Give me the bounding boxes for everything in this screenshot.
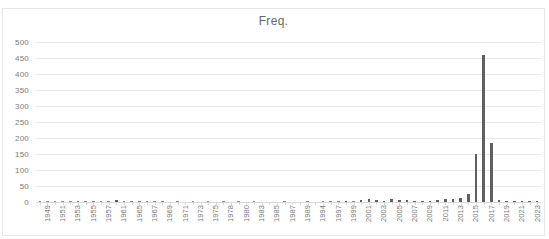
x-axis-tick <box>47 203 48 205</box>
x-axis-tick-label: 2019 <box>502 205 511 222</box>
y-axis-tick-label: 200 <box>15 134 29 143</box>
bar <box>130 201 133 202</box>
bar <box>398 200 401 202</box>
x-axis-tick-label: 2003 <box>379 205 388 222</box>
bar <box>421 201 424 202</box>
bar <box>253 201 256 202</box>
x-axis-tick-label: 1967 <box>150 205 159 222</box>
x-axis-tick-label: 1973 <box>196 205 205 222</box>
bar <box>306 201 309 202</box>
x-axis-tick <box>354 203 355 205</box>
x-axis-tick-label: 2007 <box>410 205 419 222</box>
bar <box>146 201 149 202</box>
x-axis-tick <box>522 203 523 205</box>
bar <box>528 201 531 202</box>
bar <box>360 200 363 202</box>
x-axis-tick <box>208 203 209 205</box>
x-axis-tick <box>507 203 508 205</box>
bar <box>413 201 416 202</box>
bar <box>123 201 126 202</box>
bar <box>237 201 240 202</box>
x-axis-tick <box>376 203 377 205</box>
x-axis-tick <box>484 203 485 205</box>
x-axis-tick-label: 1975 <box>211 205 220 222</box>
bar <box>368 199 371 202</box>
x-axis-tick-label: 2015 <box>471 205 480 222</box>
x-axis-tick <box>269 203 270 205</box>
x-axis-tick <box>438 203 439 205</box>
bar <box>536 201 539 202</box>
bar <box>69 201 72 202</box>
x-axis-tick <box>162 203 163 205</box>
y-axis-tick-label: 400 <box>15 70 29 79</box>
x-axis-tick-label: 2011 <box>441 205 450 222</box>
x-axis-tick <box>514 203 515 205</box>
y-axis-tick-label: 0 <box>24 198 29 207</box>
x-axis-tick-label: 2023 <box>533 205 542 222</box>
cropped-header-text <box>0 0 549 7</box>
x-axis-tick <box>338 203 339 205</box>
bar <box>429 201 432 202</box>
bar <box>192 201 195 202</box>
bar <box>329 201 332 202</box>
x-axis-tick <box>216 203 217 205</box>
x-axis-tick-label: 1978 <box>226 205 235 222</box>
x-axis-tick-label: 1969 <box>165 205 174 222</box>
bar <box>84 201 87 202</box>
bar <box>153 201 156 202</box>
x-axis-tick <box>155 203 156 205</box>
x-axis-tick-label: 1989 <box>303 205 312 222</box>
x-axis-tick <box>63 203 64 205</box>
x-axis-tick <box>530 203 531 205</box>
x-axis-tick-label: 1994 <box>318 205 327 222</box>
x-axis-tick <box>399 203 400 205</box>
x-axis-tick <box>116 203 117 205</box>
chart-container: Freq. 050100150200250300350400450500 194… <box>2 8 545 236</box>
bar <box>521 201 524 202</box>
x-axis-tick-label: 2021 <box>517 205 526 222</box>
y-axis-tick-label: 300 <box>15 102 29 111</box>
x-axis-tick <box>86 203 87 205</box>
bar <box>207 201 210 202</box>
x-axis-tick <box>124 203 125 205</box>
x-axis-tick <box>537 203 538 205</box>
x-axis-tick <box>193 203 194 205</box>
x-axis-tick <box>300 203 301 205</box>
bar <box>406 200 409 202</box>
x-axis-tick <box>499 203 500 205</box>
x-axis-tick <box>453 203 454 205</box>
bar <box>467 194 470 202</box>
bar <box>322 201 325 202</box>
bar <box>107 201 110 202</box>
bar <box>475 154 478 202</box>
bar <box>176 201 179 202</box>
x-axis-tick-label: 1999 <box>349 205 358 222</box>
bar <box>115 200 118 202</box>
x-axis-tick <box>346 203 347 205</box>
x-axis-tick <box>461 203 462 205</box>
chart-title: Freq. <box>3 14 544 28</box>
x-axis-tick <box>369 203 370 205</box>
y-axis-tick-label: 350 <box>15 86 29 95</box>
bar <box>505 201 508 202</box>
bar <box>92 201 95 202</box>
x-axis-tick <box>323 203 324 205</box>
x-axis-tick <box>468 203 469 205</box>
bar <box>77 201 80 202</box>
bar <box>337 201 340 202</box>
x-axis-tick <box>308 203 309 205</box>
x-axis-labels: 1949195119531955195719611965196719691971… <box>36 205 541 239</box>
x-axis-tick-label: 1985 <box>272 205 281 222</box>
bar-series <box>36 42 541 202</box>
x-axis-tick <box>40 203 41 205</box>
x-axis-tick <box>384 203 385 205</box>
x-axis-tick <box>231 203 232 205</box>
x-axis-tick-label: 1957 <box>104 205 113 222</box>
x-axis-tick <box>285 203 286 205</box>
x-axis-tick <box>262 203 263 205</box>
bar <box>345 201 348 202</box>
x-axis-tick-label: 1987 <box>288 205 297 222</box>
bar <box>459 198 462 202</box>
y-axis-labels: 050100150200250300350400450500 <box>3 42 33 202</box>
x-axis-tick <box>239 203 240 205</box>
